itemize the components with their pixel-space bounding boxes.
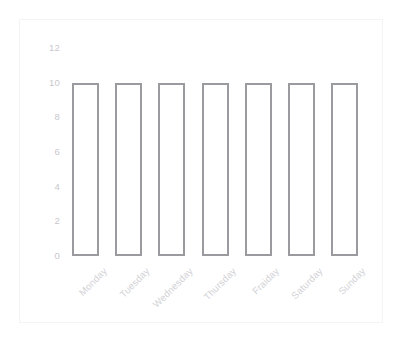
bar	[331, 83, 358, 256]
x-axis-tick-label: Fraiday	[251, 266, 281, 296]
y-axis-tick-label: 12	[30, 43, 60, 53]
x-axis-tick-label: Wednesday	[151, 266, 194, 309]
y-axis-tick-label: 2	[30, 216, 60, 226]
bar	[115, 83, 142, 256]
y-axis-tick-label: 6	[30, 147, 60, 157]
y-axis-tick-label: 10	[30, 78, 60, 88]
y-axis-tick-label: 4	[30, 182, 60, 192]
y-axis-tick-label: 0	[30, 251, 60, 261]
bar	[158, 83, 185, 256]
bar-chart: 024681012 MondayTuesdayWednesdayThursday…	[0, 0, 404, 343]
x-axis-tick-label: Thursday	[202, 266, 238, 302]
x-axis-tick-label: Tuesday	[118, 266, 151, 299]
x-axis-tick-label: Saturday	[289, 266, 324, 301]
bar	[288, 83, 315, 256]
x-axis-tick-label: Sunday	[337, 266, 367, 296]
bar	[245, 83, 272, 256]
plot-area: 024681012 MondayTuesdayWednesdayThursday…	[0, 0, 404, 343]
x-axis-tick-label: Monday	[77, 266, 108, 297]
y-axis-tick-label: 8	[30, 112, 60, 122]
bar	[72, 83, 99, 256]
bar	[202, 83, 229, 256]
